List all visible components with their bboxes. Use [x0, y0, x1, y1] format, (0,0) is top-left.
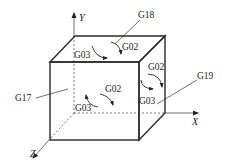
front-g03-label: G03: [75, 103, 92, 113]
g18-label: G18: [138, 10, 155, 20]
side-ccw-arc-icon: [141, 80, 153, 89]
y-axis-label: Y: [79, 12, 86, 23]
g17-label: G17: [15, 93, 32, 103]
g19-leader-line: [157, 80, 197, 104]
side-g03-label: G03: [139, 96, 156, 106]
top-g03-label: G03: [74, 50, 91, 60]
g17-leader-line: [36, 89, 68, 98]
g19-label: G19: [197, 71, 214, 81]
x-axis-label: X: [191, 116, 199, 127]
top-g02-label: G02: [122, 42, 139, 52]
front-face-annotations: G02 G03 G17: [15, 84, 122, 113]
top-ccw-arc-icon: [92, 46, 107, 58]
front-g02-label: G02: [105, 84, 122, 94]
g18-leader-line: [115, 20, 140, 44]
front-cw-arc-icon: [100, 94, 113, 105]
top-face: [50, 36, 165, 62]
cube-plane-diagram: Y X Z G03 G02 G18 G02 G03 G17 G02 G03 G1…: [0, 0, 226, 167]
front-face: [50, 62, 139, 140]
side-g02-label: G02: [148, 62, 165, 72]
top-face-annotations: G03 G02 G18: [74, 10, 155, 60]
side-cw-arc-icon: [148, 74, 162, 87]
z-axis-label: Z: [30, 148, 36, 159]
side-face: [139, 36, 165, 140]
side-face-annotations: G02 G03 G19: [139, 62, 214, 106]
top-cw-arc-icon: [111, 42, 121, 54]
z-axis-hidden-segment: [49, 113, 74, 140]
